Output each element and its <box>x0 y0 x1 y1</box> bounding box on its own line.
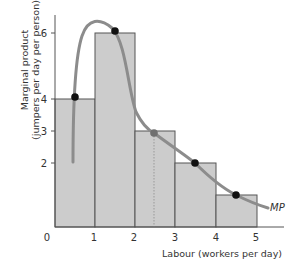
point-bar-4 <box>191 159 199 167</box>
y-tick-label: 3 <box>41 126 47 137</box>
y-tick-label: 6 <box>41 28 47 39</box>
bar-4 <box>175 163 216 227</box>
x-tick-label: 5 <box>253 232 259 243</box>
point-bar-5 <box>232 191 240 199</box>
x-tick-label: 3 <box>172 232 178 243</box>
x-tick-label: 0 <box>44 232 50 243</box>
y-tick-label: 2 <box>41 158 47 169</box>
x-tick-label: 2 <box>131 232 137 243</box>
point-highlight <box>150 129 158 137</box>
marginal-product-chart: 2 3 4 6 0 1 2 3 4 5 Labour (workers per … <box>0 0 298 265</box>
y-axis-label-line2: (jumpers per day per person) <box>30 0 41 140</box>
point-bar-1 <box>71 93 79 101</box>
x-axis-label: Labour (workers per day) <box>162 248 282 259</box>
x-tick-label: 1 <box>91 232 97 243</box>
mp-curve-label: MP <box>270 202 286 213</box>
point-bar-2 <box>111 27 119 35</box>
y-tick-label: 4 <box>41 94 47 105</box>
bar-2 <box>95 33 135 227</box>
x-tick-label: 4 <box>213 232 219 243</box>
y-axis-label-line1: Marginal product <box>19 29 30 110</box>
bar-5 <box>216 195 257 227</box>
